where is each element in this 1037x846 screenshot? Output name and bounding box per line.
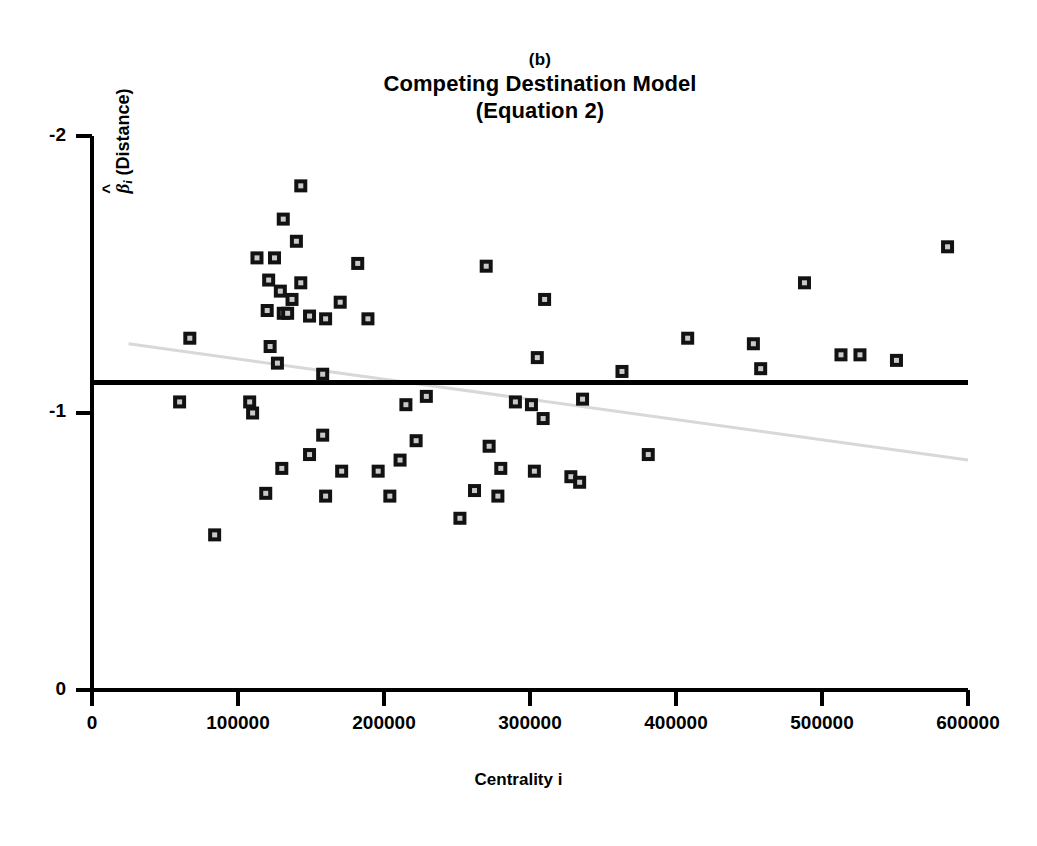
scatter-point (294, 276, 307, 289)
scatter-point (208, 528, 221, 541)
scatter-point (261, 304, 274, 317)
scatter-point (798, 276, 811, 289)
scatter-point (286, 293, 299, 306)
scatter-point (319, 490, 332, 503)
scatter-point (890, 354, 903, 367)
scatter-point (372, 465, 385, 478)
scatter-point (250, 251, 263, 264)
scatter-point (480, 260, 493, 273)
scatter-point (394, 454, 407, 467)
scatter-point (642, 448, 655, 461)
scatter-point (853, 348, 866, 361)
scatter-point (334, 296, 347, 309)
scatter-point (453, 512, 466, 525)
scatter-point (262, 274, 275, 287)
scatter-point (491, 490, 504, 503)
scatter-point (303, 310, 316, 323)
plot-canvas (0, 0, 1037, 846)
scatter-point (319, 312, 332, 325)
scatter-point (173, 395, 186, 408)
scatter-point (281, 307, 294, 320)
scatter-point (183, 332, 196, 345)
scatter-point (941, 240, 954, 253)
scatter-point (538, 293, 551, 306)
scatter-point (573, 476, 586, 489)
scatter-point (383, 490, 396, 503)
scatter-point (303, 448, 316, 461)
scatter-point (316, 368, 329, 381)
scatter-point (531, 351, 544, 364)
scatter-point (420, 390, 433, 403)
scatter-point (494, 462, 507, 475)
scatter-point (316, 429, 329, 442)
scatter-point (537, 412, 550, 425)
scatter-point (681, 332, 694, 345)
scatter-point (259, 487, 272, 500)
scatter-point (243, 395, 256, 408)
scatter-point (615, 365, 628, 378)
scatter-point (754, 362, 767, 375)
scatter-point (483, 440, 496, 453)
scatter-point (351, 257, 364, 270)
scatter-point (277, 213, 290, 226)
scatter-point (246, 407, 259, 420)
scatter-point (576, 393, 589, 406)
scatter-point (528, 465, 541, 478)
scatter-points (173, 179, 954, 541)
scatter-point (294, 179, 307, 192)
scatter-point (271, 357, 284, 370)
scatter-point (335, 465, 348, 478)
scatter-point (399, 398, 412, 411)
scatter-point (468, 484, 481, 497)
scatter-point (410, 434, 423, 447)
figure-root: (b) Competing Destination Model (Equatio… (0, 0, 1037, 846)
scatter-point (290, 235, 303, 248)
scatter-point (834, 348, 847, 361)
scatter-point (268, 251, 281, 264)
scatter-point (525, 398, 538, 411)
scatter-point (747, 337, 760, 350)
scatter-point (264, 340, 277, 353)
scatter-point (509, 395, 522, 408)
scatter-point (275, 462, 288, 475)
scatter-point (361, 312, 374, 325)
y-axis-ticks (76, 136, 92, 690)
scatter-point (274, 285, 287, 298)
x-axis-ticks (92, 690, 968, 706)
